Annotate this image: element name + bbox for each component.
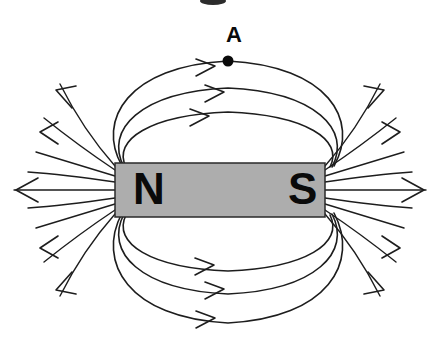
- field-diagram-svg: N S A: [0, 0, 438, 349]
- top-field-loop: [123, 112, 333, 167]
- bottom-field-loop: [119, 214, 338, 294]
- field-arrow-icon: [205, 282, 224, 299]
- field-arrow-icon: [40, 122, 58, 144]
- magnetic-field-diagram: N S A: [0, 0, 438, 349]
- left-field-line: [36, 152, 115, 176]
- point-a-label: A: [226, 22, 242, 47]
- point-a-marker-group: A: [223, 22, 243, 67]
- top-field-loop: [113, 61, 342, 166]
- right-field-line: [325, 172, 412, 182]
- left-field-line: [36, 204, 115, 228]
- bottom-field-loop: [123, 215, 333, 271]
- bottom-field-loop: [113, 213, 342, 323]
- bar-magnet: N S: [115, 163, 325, 217]
- top-field-loop: [119, 88, 338, 167]
- left-field-line: [28, 198, 115, 208]
- south-pole-label: S: [288, 164, 317, 213]
- left-field-line: [44, 118, 115, 170]
- cropped-text-artifact: [200, 0, 226, 5]
- top-loop-group: [113, 59, 342, 167]
- field-arrow-icon: [382, 236, 400, 258]
- field-arrow-icon: [382, 122, 400, 144]
- left-field-line-group: [14, 84, 115, 296]
- left-field-line: [28, 172, 115, 182]
- right-field-line: [325, 198, 412, 208]
- field-arrow-icon: [205, 85, 224, 102]
- field-arrow-icon: [40, 236, 58, 258]
- bottom-loop-group: [113, 213, 342, 328]
- field-arrow-icon: [195, 258, 214, 275]
- left-field-line: [60, 84, 115, 166]
- field-arrow-icon: [190, 109, 209, 126]
- north-pole-label: N: [133, 164, 165, 213]
- point-a-dot: [223, 56, 234, 67]
- left-field-line: [44, 210, 115, 262]
- left-field-line: [60, 214, 115, 296]
